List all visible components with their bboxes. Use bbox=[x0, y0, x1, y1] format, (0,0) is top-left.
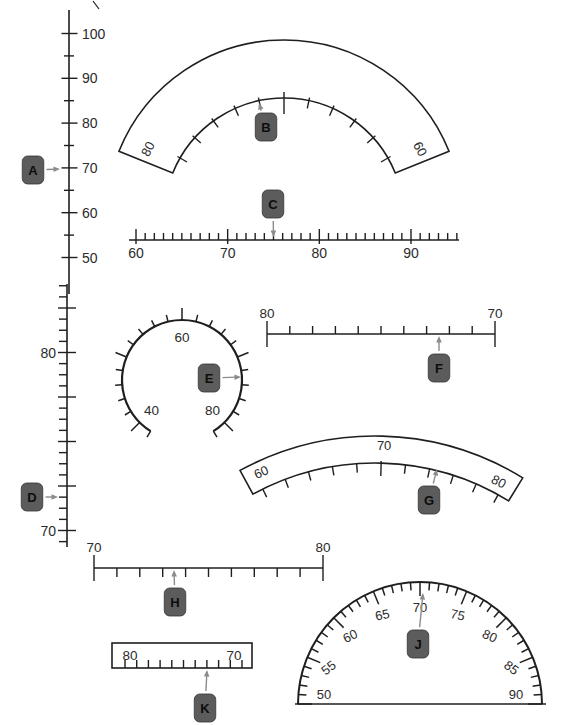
tick bbox=[166, 315, 168, 322]
scale-number: 80 bbox=[122, 648, 137, 663]
scale-number: 50 bbox=[317, 687, 331, 702]
tick bbox=[285, 479, 288, 487]
tick bbox=[494, 495, 498, 503]
tick bbox=[152, 320, 155, 326]
tick bbox=[461, 591, 466, 604]
pointer-arrow-line bbox=[433, 474, 436, 484]
tick bbox=[239, 399, 246, 401]
tick bbox=[334, 618, 344, 628]
pointer-arrowhead bbox=[436, 336, 442, 343]
pointer-A: A bbox=[22, 156, 60, 184]
scale-number: 70 bbox=[220, 245, 236, 261]
scale-C: 60708090 bbox=[128, 229, 459, 261]
scale-number: 80 bbox=[489, 471, 509, 491]
scale-number: 40 bbox=[144, 403, 159, 418]
tick bbox=[373, 591, 378, 604]
tick bbox=[307, 98, 309, 109]
pointer-C: C bbox=[262, 190, 284, 237]
pointer-letter-E: E bbox=[205, 371, 214, 386]
tick bbox=[512, 632, 518, 637]
scale-E: 604080 bbox=[115, 308, 249, 437]
tick bbox=[311, 649, 318, 653]
tick bbox=[224, 422, 232, 430]
scale-number: 60 bbox=[82, 205, 98, 221]
tick bbox=[472, 595, 476, 602]
tick bbox=[528, 666, 536, 668]
tick bbox=[517, 640, 524, 644]
tick bbox=[304, 666, 312, 668]
scale-number: 100 bbox=[82, 26, 106, 42]
tick bbox=[357, 464, 358, 473]
scale-number: 60 bbox=[174, 330, 189, 345]
pointer-H: H bbox=[164, 570, 186, 616]
scale-number: 60 bbox=[252, 462, 271, 482]
scale-G: 607080 bbox=[240, 436, 523, 503]
pointer-arrowhead bbox=[258, 103, 263, 110]
tick bbox=[356, 600, 360, 607]
scale-number: 70 bbox=[82, 160, 98, 176]
tick bbox=[496, 618, 506, 628]
scale-number: 60 bbox=[410, 139, 430, 159]
tick bbox=[118, 399, 125, 401]
scales-canvas: 1009080706050806060708090807060408080706… bbox=[0, 0, 561, 725]
scale-H: 7080 bbox=[86, 540, 330, 581]
pointer-E: E bbox=[198, 364, 241, 392]
scales-worksheet: 1009080706050806060708090807060408080706… bbox=[0, 0, 561, 725]
tick bbox=[348, 605, 353, 611]
scale-A: 1009080706050 bbox=[62, 10, 106, 294]
tick bbox=[451, 475, 454, 484]
scale-number: 60 bbox=[341, 626, 360, 646]
tick bbox=[341, 611, 346, 617]
scale-number: 80 bbox=[138, 139, 158, 159]
pointer-arrowhead bbox=[204, 670, 210, 677]
scale-number: 70 bbox=[413, 600, 427, 615]
tick bbox=[480, 600, 484, 607]
scale-B: 8060 bbox=[119, 40, 449, 173]
tick bbox=[125, 411, 131, 415]
tick bbox=[115, 385, 122, 386]
scale-number: 70 bbox=[226, 648, 241, 663]
tick bbox=[428, 469, 430, 478]
tick bbox=[213, 431, 217, 437]
tick bbox=[534, 694, 542, 695]
scale-number: 80 bbox=[480, 626, 499, 646]
pointer-arrowhead bbox=[52, 494, 59, 500]
tick bbox=[487, 605, 492, 611]
scale-K: 8070 bbox=[112, 643, 252, 668]
scale-number: 80 bbox=[205, 403, 220, 418]
tick bbox=[531, 676, 539, 678]
tick bbox=[237, 352, 248, 357]
tick bbox=[447, 585, 449, 593]
pointer-letter-H: H bbox=[170, 595, 179, 610]
pointer-letter-D: D bbox=[27, 490, 36, 505]
scale-number: 50 bbox=[82, 250, 98, 266]
tick bbox=[321, 632, 327, 637]
scale-number: 70 bbox=[86, 540, 101, 555]
tick bbox=[115, 352, 126, 357]
scale-number: 80 bbox=[315, 540, 330, 555]
scale-number: 80 bbox=[40, 345, 56, 361]
pointer-arrow-line bbox=[206, 675, 207, 691]
tick bbox=[242, 385, 249, 386]
tick bbox=[438, 584, 439, 592]
pointer-arrowhead bbox=[271, 230, 277, 237]
scale-number: 80 bbox=[82, 115, 98, 131]
tick bbox=[494, 611, 499, 617]
tick bbox=[533, 685, 541, 686]
tick bbox=[332, 467, 334, 476]
tick bbox=[300, 685, 308, 686]
tick bbox=[138, 329, 143, 334]
scale-number: 70 bbox=[487, 306, 502, 321]
scale-number: 70 bbox=[40, 523, 56, 539]
pointer-K: K bbox=[194, 670, 216, 722]
tick bbox=[401, 584, 402, 592]
tick bbox=[196, 315, 198, 322]
tick bbox=[233, 411, 239, 415]
scale-F: 8070 bbox=[259, 306, 502, 347]
pointer-letter-C: C bbox=[268, 197, 278, 212]
scale-number: 75 bbox=[449, 606, 466, 624]
tick bbox=[221, 329, 226, 334]
tick bbox=[520, 657, 533, 662]
tick bbox=[131, 422, 139, 430]
scale-number: 90 bbox=[403, 245, 419, 261]
